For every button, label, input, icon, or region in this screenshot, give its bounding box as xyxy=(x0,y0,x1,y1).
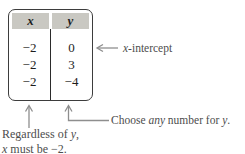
regardless-line1-comma: , xyxy=(76,127,79,141)
column-header-x: x xyxy=(12,13,49,29)
x-intercept-label: x-intercept xyxy=(123,42,172,54)
table-body: −2 −2 −2 0 3 −4 xyxy=(9,29,92,100)
left-arrow-icon xyxy=(95,43,119,53)
choose-label-part2: number for xyxy=(165,114,222,126)
regardless-line2-text: must be −2. xyxy=(7,142,66,154)
column-y-values: 0 3 −4 xyxy=(51,29,92,100)
up-arrow-icon xyxy=(24,103,34,129)
column-x-values: −2 −2 −2 xyxy=(9,29,51,100)
table-cell-x3: −2 xyxy=(23,73,37,90)
table-cell-x2: −2 xyxy=(23,56,37,73)
choose-label-period: . xyxy=(227,114,230,126)
xy-value-table: x y −2 −2 −2 0 3 −4 xyxy=(8,9,93,101)
table-cell-y3: −4 xyxy=(65,73,79,90)
table-cell-x1: −2 xyxy=(23,39,37,56)
choose-any-number-callout: Choose any number for y. xyxy=(111,113,230,127)
column-header-y: y xyxy=(52,13,89,29)
regardless-line1: Regardless of y, xyxy=(2,127,79,142)
regardless-line1-text: Regardless of xyxy=(2,127,71,141)
annotated-xy-table-figure: x y −2 −2 −2 0 3 −4 x-intercept xyxy=(0,0,245,153)
regardless-line2: x must be −2. xyxy=(2,142,79,154)
choose-label-italic-any: any xyxy=(148,114,165,126)
table-cell-y1: 0 xyxy=(68,39,75,56)
choose-label-part1: Choose xyxy=(111,114,148,126)
x-intercept-label-rest: -intercept xyxy=(128,42,172,54)
up-arrow-elbow-connector-icon xyxy=(63,103,110,123)
choose-any-number-label: Choose any number for y. xyxy=(111,114,230,126)
table-header-row: x y xyxy=(9,10,92,29)
table-cell-y2: 3 xyxy=(68,56,75,73)
x-intercept-callout: x-intercept xyxy=(95,41,172,55)
regardless-callout: Regardless of y, x must be −2. xyxy=(2,127,79,153)
